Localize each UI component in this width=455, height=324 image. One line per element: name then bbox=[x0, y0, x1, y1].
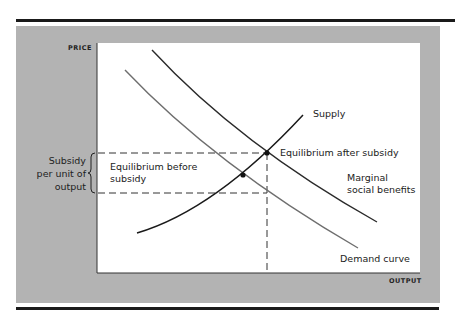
subsidy-per-unit-label: Subsidy per unit of output bbox=[37, 154, 86, 193]
subsidy-brace bbox=[88, 153, 95, 193]
subsidy-label-line1: Subsidy bbox=[37, 154, 86, 167]
msb-label-line2: social benefits bbox=[347, 184, 416, 196]
equilibrium-after-label: Equilibrium after subsidy bbox=[280, 147, 399, 159]
bottom-rule bbox=[16, 307, 439, 310]
supply-label: Supply bbox=[313, 108, 345, 120]
x-axis-label: OUTPUT bbox=[389, 277, 422, 285]
demand-curve-label: Demand curve bbox=[340, 253, 410, 265]
subsidy-label-line2: per unit of bbox=[37, 167, 86, 180]
equilibrium-before-label-line1: Equilibrium before bbox=[110, 161, 197, 173]
equilibrium-before-point bbox=[240, 172, 245, 177]
supply-curve bbox=[137, 115, 303, 233]
demand-curve bbox=[125, 70, 358, 248]
msb-curve bbox=[152, 50, 377, 222]
subsidy-label-line3: output bbox=[37, 180, 86, 193]
y-axis-label: PRICE bbox=[68, 44, 92, 52]
msb-label-line1: Marginal bbox=[347, 172, 388, 184]
equilibrium-after-point bbox=[264, 150, 269, 155]
equilibrium-before-label-line2: subsidy bbox=[110, 173, 146, 185]
